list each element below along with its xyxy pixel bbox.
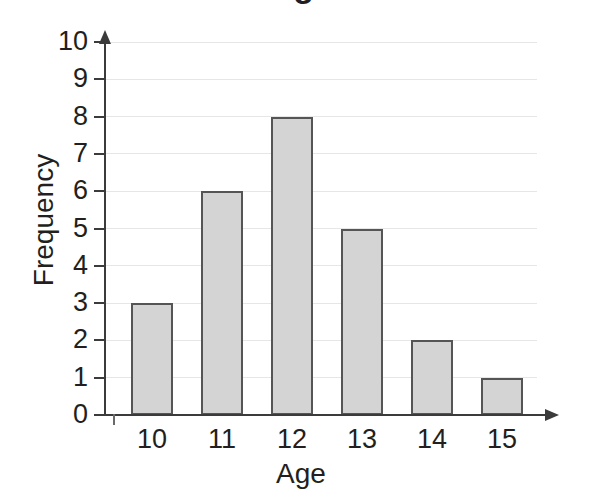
x-axis-tick-label: 15 bbox=[462, 424, 542, 454]
x-axis-tick-label: 12 bbox=[252, 424, 332, 454]
x-axis-tick-label: 13 bbox=[322, 424, 402, 454]
x-axis-tick-labels-group: 101112131415 bbox=[0, 0, 602, 501]
x-axis-tick-label: 14 bbox=[392, 424, 472, 454]
x-axis-tick-label: 10 bbox=[112, 424, 192, 454]
x-axis-tick-label: 11 bbox=[182, 424, 262, 454]
y-axis-title: Frequency bbox=[28, 80, 60, 360]
frequency-bar-chart: Age 012345678910 101112131415 Age Freque… bbox=[0, 0, 602, 501]
x-axis-title: Age bbox=[0, 458, 602, 490]
